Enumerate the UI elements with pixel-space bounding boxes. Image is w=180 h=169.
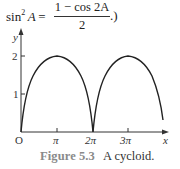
cycloid-curve <box>21 56 163 132</box>
figure-number: Figure 5.3 <box>40 149 95 163</box>
y-axis-label: y <box>12 31 18 43</box>
y-tick-label-1: 1 <box>13 88 19 100</box>
y-axis-arrow-icon <box>19 28 24 35</box>
cycloid-figure: y 2 1 O π 2π 3π x <box>0 0 180 169</box>
x-tick-label-3pi: 3π <box>119 134 132 146</box>
origin-label: O <box>15 134 23 146</box>
x-axis-label: x <box>162 134 168 146</box>
x-tick-label-2pi: 2π <box>85 134 97 146</box>
figure-title: A cycloid. <box>103 149 154 163</box>
y-tick-label-2: 2 <box>12 50 18 62</box>
x-tick-label-pi: π <box>53 134 59 146</box>
figure-caption: Figure 5.3A cycloid. <box>40 149 154 164</box>
